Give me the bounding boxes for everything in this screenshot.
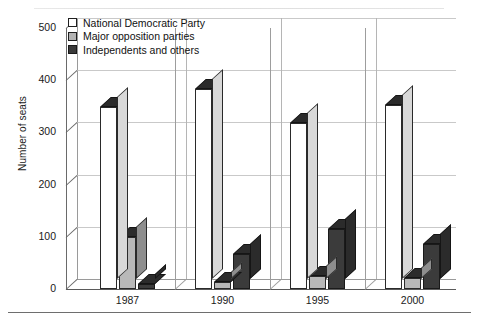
- legend-swatch-icon: [68, 18, 77, 27]
- bar-side-face: [307, 103, 318, 279]
- group-separator-front: [270, 28, 271, 289]
- y-axis-tick-label: 100: [22, 230, 56, 242]
- legend-item: Independents and others: [68, 43, 205, 57]
- bar-side-face: [136, 217, 147, 279]
- gridline: [77, 70, 456, 71]
- bar-national-democratic-party-2000: [385, 105, 402, 289]
- group-separator: [186, 18, 187, 279]
- legend-item-label: Major opposition parties: [83, 30, 194, 42]
- bar-front-face: [404, 278, 421, 289]
- bar-front-face: [138, 284, 155, 289]
- y-axis-line-front: [66, 28, 67, 290]
- bar-side-face: [212, 69, 223, 279]
- chart-legend: National Democratic Party Major oppositi…: [68, 16, 205, 57]
- axis-tick: [66, 227, 78, 238]
- bar-front-face: [195, 89, 212, 289]
- axis-tick: [66, 123, 78, 134]
- bar-side-face: [402, 85, 413, 279]
- bar-side-face: [345, 209, 356, 279]
- bar-front-face: [100, 107, 117, 289]
- x-axis-tick-label: 2000: [383, 294, 443, 306]
- bar-major-opposition-parties-2000: [404, 278, 421, 289]
- x-axis-line-front: [66, 289, 456, 290]
- bar-national-democratic-party-1995: [290, 123, 307, 289]
- bar-front-face: [214, 282, 231, 289]
- bottom-divider: [8, 312, 471, 313]
- y-axis-tick-label: 200: [22, 178, 56, 190]
- bar-national-democratic-party-1987: [100, 107, 117, 289]
- y-axis-tick-label: 300: [22, 125, 56, 137]
- group-separator: [281, 18, 282, 279]
- legend-item-label: Independents and others: [83, 44, 199, 56]
- group-separator: [376, 18, 377, 279]
- bar-major-opposition-parties-1990: [214, 282, 231, 289]
- bar-independents-and-others-1987: [138, 284, 155, 289]
- legend-item-label: National Democratic Party: [83, 17, 205, 29]
- bar-side-face: [440, 224, 451, 279]
- axis-tick: [66, 175, 78, 186]
- y-axis-tick-labels: 0100200300400500: [22, 0, 56, 327]
- bar-front-face: [290, 123, 307, 289]
- legend-item: National Democratic Party: [68, 16, 205, 30]
- legend-swatch-icon: [68, 32, 77, 41]
- axis-tick: [66, 70, 78, 81]
- y-axis-tick-label: 400: [22, 73, 56, 85]
- x-axis-tick-label: 1995: [288, 294, 348, 306]
- group-separator-front: [175, 28, 176, 289]
- bar-major-opposition-parties-1995: [309, 276, 326, 289]
- plot-area: [66, 18, 456, 290]
- bar-front-face: [385, 105, 402, 289]
- y-axis-line-back: [77, 18, 78, 280]
- y-axis-tick-label: 500: [22, 21, 56, 33]
- legend-swatch-icon: [68, 45, 77, 54]
- legend-item: Major opposition parties: [68, 30, 205, 44]
- y-axis-tick-label: 0: [22, 282, 56, 294]
- x-axis-tick-label: 1987: [98, 294, 158, 306]
- bar-front-face: [309, 276, 326, 289]
- group-separator-front: [365, 28, 366, 289]
- bar-national-democratic-party-1990: [195, 89, 212, 289]
- bar-side-face: [117, 87, 128, 279]
- seats-bar-chart: Number of seats 0100200300400500 Nationa…: [0, 0, 479, 327]
- x-axis-tick-label: 1990: [193, 294, 253, 306]
